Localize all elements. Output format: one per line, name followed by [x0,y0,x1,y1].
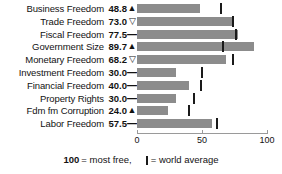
trend-flat-icon: — [127,118,137,129]
chart-plot-area [137,0,267,133]
world-average-tick [232,16,234,27]
bar [137,4,200,13]
axis-tick [137,130,138,134]
bar [137,68,176,77]
row-value-label: 68.2 [105,54,127,65]
bar [137,94,176,103]
trend-down-icon: ▽ [127,54,137,65]
row-value-label: 77.5 [105,29,127,40]
trend-flat-icon: — [127,80,137,91]
row-category-label: Trade Freedom [0,16,104,27]
row-value-label: 73.0 [105,16,127,27]
row-category-label: Fdm fm Corruption [0,105,104,116]
trend-flat-icon: — [127,67,137,78]
world-average-tick [188,105,190,116]
axis-tick-label: 0 [125,135,149,146]
row-category-label: Monetary Freedom [0,54,104,65]
row-value-label: 30.0 [105,67,127,78]
bar [137,119,212,128]
row-category-label: Financial Freedom [0,80,104,91]
world-average-tick [222,41,224,52]
world-average-tick [200,80,202,91]
bar [137,81,189,90]
chart-legend: 100 = most free, = world average [0,152,282,168]
row-category-label: Business Freedom [0,3,104,14]
row-value-label: 57.5 [105,118,127,129]
legend-max-value: 100 [63,154,79,166]
legend-max-text: = most free, [81,154,131,166]
world-average-tick [201,67,203,78]
row-value-label: 89.7 [105,41,127,52]
row-value-label: 24.0 [105,105,127,116]
world-average-tick [220,3,222,14]
bar [137,30,238,39]
row-value-label: 40.0 [105,80,127,91]
trend-up-icon: ▲ [127,105,137,116]
world-average-tick-icon [146,156,148,165]
axis-tick [202,130,203,134]
bar [137,42,254,51]
bar [137,17,232,26]
bar [137,106,168,115]
row-category-label: Government Size [0,41,104,52]
world-average-tick [216,118,218,129]
trend-up-icon: ▲ [127,41,137,52]
legend-average-text: = world average [151,154,219,166]
row-category-label: Labor Freedom [0,118,104,129]
world-average-tick [193,93,195,104]
axis-tick-label: 50 [190,135,214,146]
trend-flat-icon: — [127,93,137,104]
world-average-tick [235,29,237,40]
trend-down-icon: ▽ [127,16,137,27]
row-value-label: 30.0 [105,93,127,104]
world-average-tick [232,54,234,65]
bar [137,55,226,64]
row-category-label: Investment Freedom [0,67,104,78]
trend-flat-icon: — [127,29,137,40]
freedom-index-chart: Business Freedom48.8▲Trade Freedom73.0▽F… [0,0,282,174]
trend-up-icon: ▲ [127,3,137,14]
row-category-label: Fiscal Freedom [0,29,104,40]
axis-tick-label: 100 [255,135,279,146]
row-value-label: 48.8 [105,3,127,14]
axis-tick [267,130,268,134]
row-category-label: Property Rights [0,93,104,104]
